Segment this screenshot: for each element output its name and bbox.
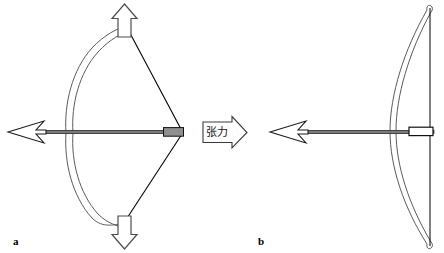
bow-a-upper-limb-inner [73,31,129,133]
arrow-b [270,121,434,143]
arrow-a-head [8,121,46,143]
upward-force-arrow-shape [112,4,137,37]
arrow-b-head [270,121,308,143]
panel-b-group [270,5,434,248]
downward-force-arrow [112,216,137,249]
figure-root: 张力 [0,0,444,253]
tension-label: 张力 [206,126,228,139]
physics-bow-diagram: 张力 [0,0,444,253]
panel-label-b: b [258,236,264,247]
arrow-b-nock [409,127,433,135]
arrow-a-nock [164,128,184,137]
panel-a-group [8,26,184,229]
arrow-a [8,121,184,143]
bowstring-a [125,29,183,223]
downward-force-arrow-shape [112,216,137,249]
bowstring-a-lower [125,134,183,222]
bow-a-lower-limb-inner [73,133,125,228]
bow-a [66,26,130,229]
bow-a-lower-limb-outer [66,133,123,225]
bow-a-upper-limb-outer [66,26,126,133]
upward-force-arrow [112,4,137,37]
panel-label-a: a [13,236,19,247]
bowstring-a-upper [128,29,183,132]
